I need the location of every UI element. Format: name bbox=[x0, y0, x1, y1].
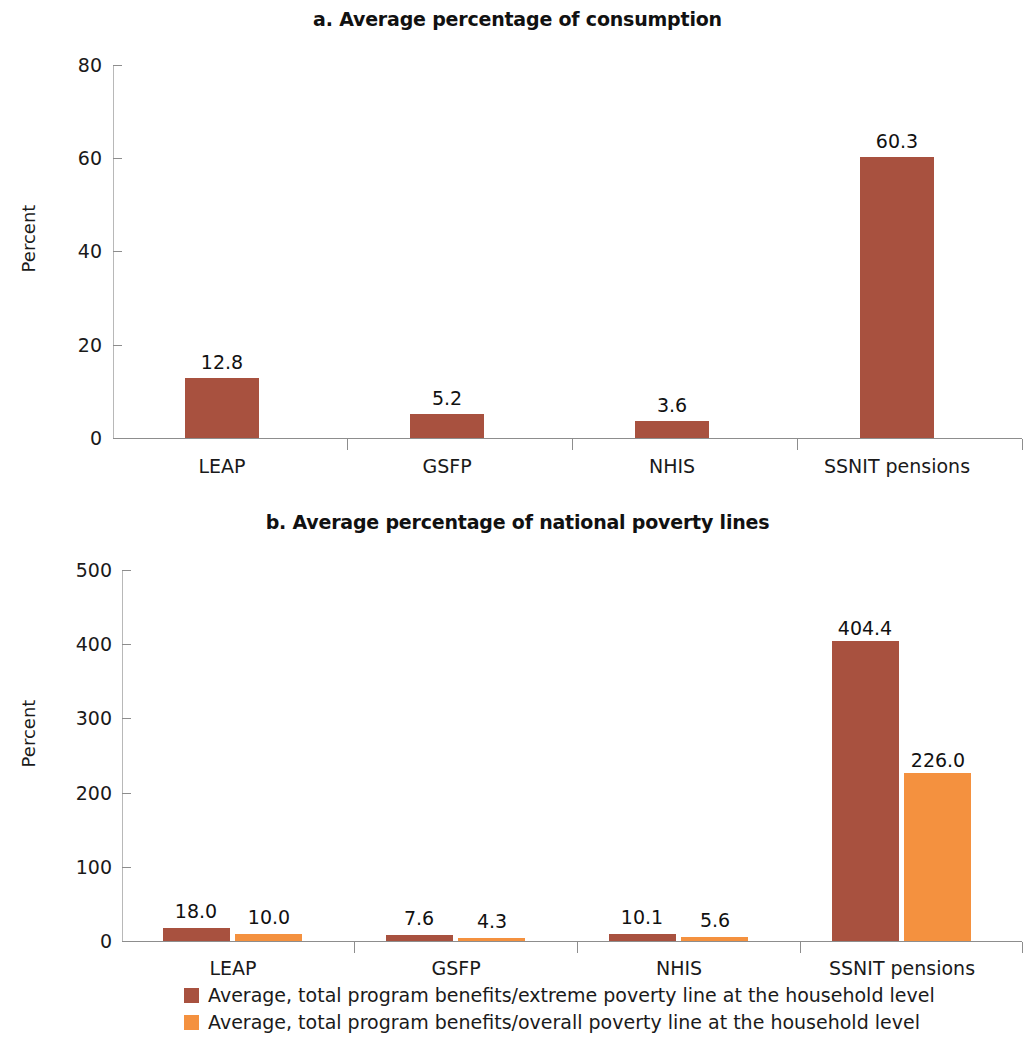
panel-b-y-axis-title: Percent bbox=[18, 684, 39, 784]
panel-b-ytick-0: 0 bbox=[42, 930, 112, 952]
bar-ssnit-consumption bbox=[860, 157, 934, 438]
panel-a-ytick-80: 80 bbox=[40, 54, 102, 76]
bar-value-nhis-extreme: 10.1 bbox=[621, 906, 663, 928]
panel-b-ytick-mark-300 bbox=[122, 718, 131, 719]
panel-b-x-axis-line bbox=[122, 941, 1022, 942]
bar-ssnit-overall bbox=[904, 773, 971, 941]
panel-a-ytick-60: 60 bbox=[40, 147, 102, 169]
bar-nhis-consumption bbox=[635, 421, 709, 438]
panel-a-x-axis-line bbox=[113, 438, 1022, 439]
panel-b-xsep-2 bbox=[577, 942, 578, 953]
panel-a-category-leap: LEAP bbox=[198, 455, 245, 477]
legend-label-extreme: Average, total program benefits/extreme … bbox=[208, 986, 935, 1005]
panel-b-title: b. Average percentage of national povert… bbox=[0, 511, 1035, 533]
panel-b-ytick-mark-200 bbox=[122, 793, 131, 794]
panel-b-chart: Percent 500 400 300 200 100 0 bbox=[0, 548, 1035, 988]
legend-swatch-icon-overall bbox=[184, 1015, 199, 1030]
bar-value-nhis-overall: 5.6 bbox=[700, 909, 730, 931]
panel-a-xsep-2 bbox=[572, 439, 573, 450]
bar-value-leap-overall: 10.0 bbox=[248, 906, 290, 928]
panel-b-ytick-mark-500 bbox=[122, 570, 131, 571]
panel-b-ytick-400: 400 bbox=[42, 633, 112, 655]
bar-value-gsfp-overall: 4.3 bbox=[477, 910, 507, 932]
panel-a-ytick-40: 40 bbox=[40, 240, 102, 262]
panel-a-ytick-mark-20 bbox=[113, 345, 122, 346]
legend-item-extreme-poverty: Average, total program benefits/extreme … bbox=[184, 982, 1024, 1009]
panel-a-ytick-0: 0 bbox=[40, 427, 102, 449]
panel-b-xsep-4 bbox=[1022, 942, 1023, 953]
bar-value-leap-extreme: 18.0 bbox=[175, 900, 217, 922]
panel-a-chart: Percent 80 60 40 20 0 12.8 5.2 3.6 60.3 bbox=[0, 45, 1035, 490]
bar-value-ssnit-extreme: 404.4 bbox=[838, 617, 892, 639]
panel-a-y-axis-title: Percent bbox=[18, 189, 39, 289]
panel-b-ytick-500: 500 bbox=[42, 559, 112, 581]
bar-leap-overall bbox=[235, 934, 302, 941]
panel-b-xsep-1 bbox=[354, 942, 355, 953]
panel-b-ytick-200: 200 bbox=[42, 782, 112, 804]
panel-b-category-leap: LEAP bbox=[209, 957, 256, 979]
panel-a-ytick-mark-60 bbox=[113, 158, 122, 159]
bar-value-nhis-consumption: 3.6 bbox=[657, 394, 687, 416]
panel-a-plot-area: 12.8 5.2 3.6 60.3 bbox=[122, 65, 1022, 438]
bar-leap-consumption bbox=[185, 378, 259, 438]
bar-value-ssnit-overall: 226.0 bbox=[911, 749, 965, 771]
panel-b-y-axis-line bbox=[122, 570, 123, 941]
panel-a-title: a. Average percentage of consumption bbox=[0, 8, 1035, 30]
bar-leap-extreme bbox=[163, 928, 230, 941]
panel-a-category-gsfp: GSFP bbox=[422, 455, 471, 477]
panel-b-ytick-100: 100 bbox=[42, 856, 112, 878]
panel-a-xsep-4 bbox=[1022, 439, 1023, 450]
panel-b-ytick-mark-400 bbox=[122, 644, 131, 645]
bar-value-ssnit-consumption: 60.3 bbox=[876, 130, 918, 152]
legend-label-overall: Average, total program benefits/overall … bbox=[208, 1013, 920, 1032]
panel-a-ytick-20: 20 bbox=[40, 334, 102, 356]
panel-b-category-gsfp: GSFP bbox=[431, 957, 480, 979]
panel-b-xsep-3 bbox=[800, 942, 801, 953]
legend: Average, total program benefits/extreme … bbox=[184, 982, 1024, 1036]
bar-value-leap-consumption: 12.8 bbox=[201, 351, 243, 373]
panel-a-category-ssnit: SSNIT pensions bbox=[824, 455, 970, 477]
panel-a-category-nhis: NHIS bbox=[649, 455, 695, 477]
bar-nhis-extreme bbox=[609, 934, 676, 941]
panel-a-xsep-3 bbox=[797, 439, 798, 450]
panel-b-ytick-300: 300 bbox=[42, 707, 112, 729]
bar-gsfp-consumption bbox=[410, 414, 484, 438]
bar-ssnit-extreme bbox=[832, 641, 899, 941]
panel-a-ytick-mark-80 bbox=[113, 65, 122, 66]
panel-a-ytick-mark-40 bbox=[113, 251, 122, 252]
bar-value-gsfp-consumption: 5.2 bbox=[432, 387, 462, 409]
legend-item-overall-poverty: Average, total program benefits/overall … bbox=[184, 1009, 1024, 1036]
legend-swatch-icon-extreme bbox=[184, 988, 199, 1003]
bar-value-gsfp-extreme: 7.6 bbox=[404, 907, 434, 929]
panel-b-ytick-mark-100 bbox=[122, 867, 131, 868]
panel-b-plot-area: 18.0 10.0 7.6 4.3 10.1 5.6 404.4 226.0 bbox=[131, 570, 1022, 941]
panel-b-category-nhis: NHIS bbox=[656, 957, 702, 979]
figure: a. Average percentage of consumption Per… bbox=[0, 0, 1035, 1045]
panel-a-xsep-1 bbox=[347, 439, 348, 450]
panel-b-category-ssnit: SSNIT pensions bbox=[829, 957, 975, 979]
